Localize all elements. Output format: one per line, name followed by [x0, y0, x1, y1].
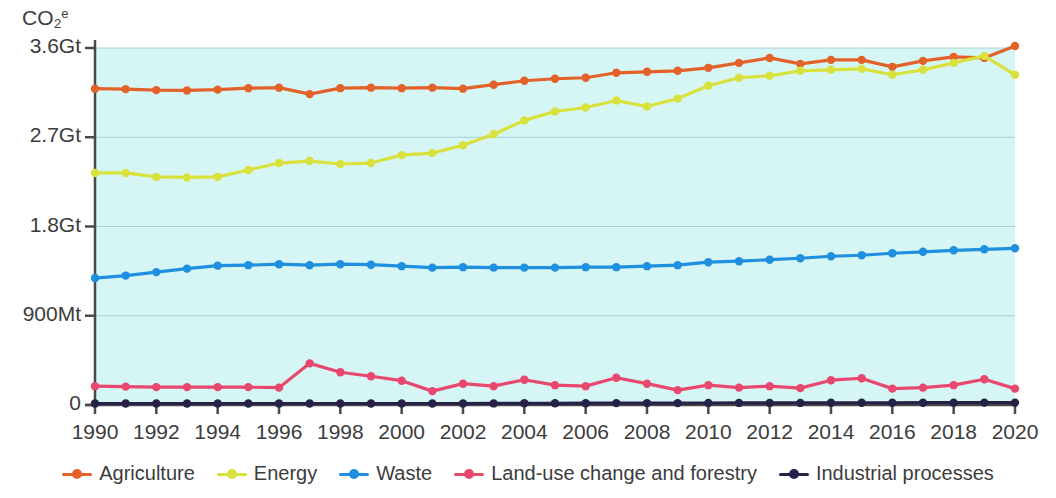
data-point: [397, 262, 405, 270]
data-point: [152, 383, 160, 391]
data-point: [367, 399, 375, 407]
data-point: [673, 94, 681, 102]
x-axis-tick-label: 2004: [489, 420, 559, 444]
data-point: [305, 359, 313, 367]
data-point: [183, 264, 191, 272]
data-point: [121, 169, 129, 177]
x-axis-tick-label: 2008: [612, 420, 682, 444]
data-point: [612, 96, 620, 104]
data-point: [121, 85, 129, 93]
data-point: [275, 260, 283, 268]
data-point: [673, 261, 681, 269]
data-point: [121, 382, 129, 390]
data-point: [673, 386, 681, 394]
data-point: [673, 399, 681, 407]
data-point: [643, 399, 651, 407]
data-point: [980, 398, 988, 406]
data-point: [459, 379, 467, 387]
data-point: [305, 90, 313, 98]
data-point: [275, 383, 283, 391]
data-point: [152, 268, 160, 276]
data-point: [428, 387, 436, 395]
legend-item-agriculture[interactable]: Agriculture: [62, 462, 195, 485]
data-point: [735, 383, 743, 391]
data-point: [704, 399, 712, 407]
data-point: [183, 173, 191, 181]
y-axis-tick-label: 2.7Gt: [1, 123, 81, 147]
data-point: [459, 263, 467, 271]
data-point: [397, 399, 405, 407]
data-point: [949, 399, 957, 407]
data-point: [919, 248, 927, 256]
x-axis-tick-label: 1994: [183, 420, 253, 444]
legend-marker-icon: [779, 467, 809, 481]
data-point: [275, 399, 283, 407]
data-point: [704, 81, 712, 89]
data-point: [827, 376, 835, 384]
data-point: [765, 72, 773, 80]
data-point: [305, 261, 313, 269]
data-point: [827, 56, 835, 64]
data-point: [796, 67, 804, 75]
data-point: [551, 399, 559, 407]
legend-item-land-use-change-and-forestry[interactable]: Land-use change and forestry: [454, 462, 757, 485]
data-point: [305, 157, 313, 165]
x-axis-tick-label: 1992: [121, 420, 191, 444]
data-point: [397, 377, 405, 385]
x-axis-tick-label: 2002: [428, 420, 498, 444]
legend-marker-icon: [339, 467, 369, 481]
data-point: [980, 375, 988, 383]
data-point: [428, 263, 436, 271]
data-point: [489, 382, 497, 390]
y-axis-tick-label: 3.6Gt: [1, 34, 81, 58]
data-point: [888, 71, 896, 79]
data-point: [336, 399, 344, 407]
data-point: [827, 399, 835, 407]
data-point: [367, 83, 375, 91]
data-point: [857, 56, 865, 64]
data-point: [735, 257, 743, 265]
data-point: [551, 75, 559, 83]
data-point: [704, 258, 712, 266]
data-point: [213, 261, 221, 269]
data-point: [949, 381, 957, 389]
legend-label: Energy: [254, 462, 317, 485]
data-point: [919, 66, 927, 74]
data-point: [520, 77, 528, 85]
legend-item-waste[interactable]: Waste: [339, 462, 432, 485]
legend-label: Land-use change and forestry: [491, 462, 757, 485]
data-point: [305, 399, 313, 407]
x-axis-tick-label: 2006: [551, 420, 621, 444]
data-point: [152, 399, 160, 407]
data-point: [612, 69, 620, 77]
data-point: [520, 116, 528, 124]
data-point: [244, 261, 252, 269]
data-point: [888, 249, 896, 257]
data-point: [489, 80, 497, 88]
data-point: [857, 65, 865, 73]
data-point: [91, 382, 99, 390]
data-point: [459, 141, 467, 149]
data-point: [735, 74, 743, 82]
data-point: [612, 263, 620, 271]
x-axis-tick-label: 2010: [673, 420, 743, 444]
legend-item-industrial-processes[interactable]: Industrial processes: [779, 462, 994, 485]
data-point: [919, 399, 927, 407]
data-point: [581, 263, 589, 271]
legend-label: Waste: [376, 462, 432, 485]
data-point: [1011, 398, 1019, 406]
data-point: [980, 52, 988, 60]
data-point: [551, 263, 559, 271]
data-point: [213, 85, 221, 93]
data-point: [213, 399, 221, 407]
data-point: [765, 256, 773, 264]
y-axis-tick-label: 1.8Gt: [1, 213, 81, 237]
data-point: [581, 103, 589, 111]
legend-item-energy[interactable]: Energy: [217, 462, 317, 485]
legend-label: Agriculture: [99, 462, 195, 485]
data-point: [336, 368, 344, 376]
data-point: [397, 84, 405, 92]
data-point: [183, 383, 191, 391]
data-point: [796, 254, 804, 262]
data-point: [520, 399, 528, 407]
